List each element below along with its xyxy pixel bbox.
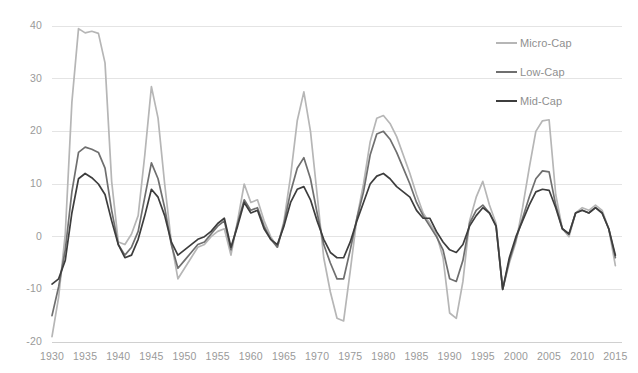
- x-tick-2010: 2010: [565, 350, 599, 362]
- x-tick-1940: 1940: [101, 350, 135, 362]
- x-tick-1950: 1950: [168, 350, 202, 362]
- x-tick-2000: 2000: [499, 350, 533, 362]
- y-tick-10: 10: [12, 177, 42, 189]
- x-tick-1935: 1935: [68, 350, 102, 362]
- y-tick-30: 30: [12, 72, 42, 84]
- x-tick-1990: 1990: [433, 350, 467, 362]
- legend-item-low-cap[interactable]: Low-Cap: [496, 57, 572, 86]
- x-tick-1970: 1970: [300, 350, 334, 362]
- x-tick-1975: 1975: [333, 350, 367, 362]
- legend-label: Low-Cap: [520, 66, 565, 78]
- y-tick-20: 20: [12, 124, 42, 136]
- y-tick-0: 0: [12, 230, 42, 242]
- y-tick--10: -10: [12, 282, 42, 294]
- legend-label: Mid-Cap: [520, 95, 562, 107]
- x-tick-1980: 1980: [366, 350, 400, 362]
- legend-item-micro-cap[interactable]: Micro-Cap: [496, 28, 572, 57]
- chart-legend: Micro-CapLow-CapMid-Cap: [496, 28, 572, 115]
- x-tick-1960: 1960: [234, 350, 268, 362]
- legend-swatch-icon: [496, 100, 517, 102]
- x-tick-1945: 1945: [134, 350, 168, 362]
- x-tick-1955: 1955: [201, 350, 235, 362]
- y-tick--20: -20: [12, 335, 42, 347]
- x-tick-1930: 1930: [35, 350, 69, 362]
- legend-label: Micro-Cap: [520, 37, 572, 49]
- x-tick-2005: 2005: [532, 350, 566, 362]
- chart-container: 403020100-10-20 193019351940194519501955…: [0, 0, 638, 373]
- x-tick-1965: 1965: [267, 350, 301, 362]
- x-tick-1985: 1985: [400, 350, 434, 362]
- legend-swatch-icon: [496, 42, 517, 44]
- x-tick-2015: 2015: [598, 350, 632, 362]
- y-tick-40: 40: [12, 19, 42, 31]
- legend-swatch-icon: [496, 71, 517, 73]
- legend-item-mid-cap[interactable]: Mid-Cap: [496, 86, 572, 115]
- x-tick-1995: 1995: [466, 350, 500, 362]
